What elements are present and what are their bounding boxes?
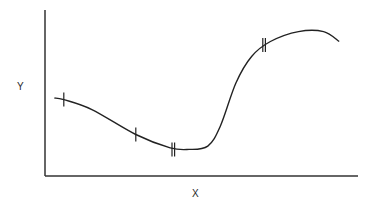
y-axis-label: Y [17, 82, 24, 92]
plot-svg [0, 0, 375, 205]
data-curve [54, 30, 339, 149]
curve-markers [64, 38, 266, 156]
diagram-figure: Y X [0, 0, 375, 205]
x-axis-label: X [192, 189, 199, 199]
